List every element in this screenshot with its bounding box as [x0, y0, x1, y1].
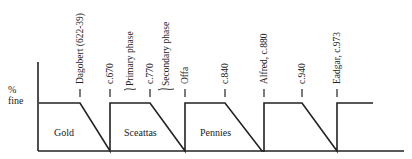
marker-dagobert: Dagobert (622-39) [75, 13, 85, 84]
marker-secondary-phase: Secondary phase [161, 22, 171, 86]
marker-c770: c.770 [145, 63, 155, 84]
region-label-pennies: Pennies [200, 127, 231, 138]
marker-offa: Offa [180, 67, 190, 84]
y-axis-label-fine: fine [8, 95, 24, 106]
marker-c670: c.670 [105, 63, 115, 84]
marker-ticks [80, 89, 337, 97]
marker-eadgar: Eadgar, c.973 [332, 32, 342, 84]
marker-primary-phase: Primary phase [125, 31, 135, 86]
region-label-gold: Gold [54, 127, 74, 138]
marker-alfred: Alfred, c.880 [259, 34, 269, 84]
phase-braces [124, 89, 174, 90]
region-label-sceattas: Sceattas [124, 127, 157, 138]
coinage-fineness-diagram: % fine Gold Sceattas Pennies Dagobert (6… [0, 0, 412, 159]
y-axis-label-percent: % [8, 84, 16, 95]
marker-c840: c.840 [220, 63, 230, 84]
marker-c940: c.940 [297, 63, 307, 84]
